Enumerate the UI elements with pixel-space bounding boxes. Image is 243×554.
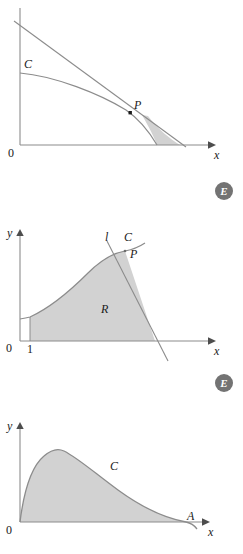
point-label-p-figure-1: P (134, 99, 141, 111)
y-axis-arrowhead-figure-2 (16, 229, 23, 236)
figure-2: l C P R 0 1 x y (0, 185, 243, 370)
figure-1-graphic (0, 0, 243, 185)
point-marker-p-figure-2 (124, 250, 127, 253)
tick-label-one-figure-2: 1 (27, 343, 33, 355)
figure-2-graphic (0, 185, 243, 370)
x-axis-label-figure-3: x (208, 526, 213, 538)
tangent-label-l-figure-2: l (105, 231, 108, 243)
curve-label-c-figure-1: C (24, 58, 32, 70)
origin-label-figure-2: 0 (6, 342, 12, 354)
origin-label-figure-3: 0 (6, 524, 12, 536)
point-label-p-figure-2: P (130, 248, 137, 260)
x-axis-label-figure-2: x (214, 345, 219, 357)
curve-label-c-figure-3: C (110, 460, 118, 472)
figure-3: C A 0 x y (0, 370, 243, 554)
y-axis-label-figure-2: y (7, 227, 12, 239)
point-marker-p-figure-1 (129, 111, 132, 114)
tangent-line-figure-1 (14, 21, 186, 147)
figure-3-graphic (0, 370, 243, 554)
y-axis-arrowhead-figure-3 (16, 422, 23, 429)
y-axis-label-figure-3: y (7, 420, 12, 432)
shaded-region-r-figure-2 (30, 251, 155, 341)
region-label-r-figure-2: R (101, 303, 108, 315)
figure-1: C P 0 x (0, 0, 243, 185)
curve-label-c-figure-2: C (124, 231, 132, 243)
x-axis-label-figure-1: x (214, 149, 219, 161)
shaded-region-figure-3 (20, 449, 186, 522)
point-label-a-figure-3: A (187, 510, 194, 522)
origin-label-figure-1: 0 (8, 147, 14, 159)
